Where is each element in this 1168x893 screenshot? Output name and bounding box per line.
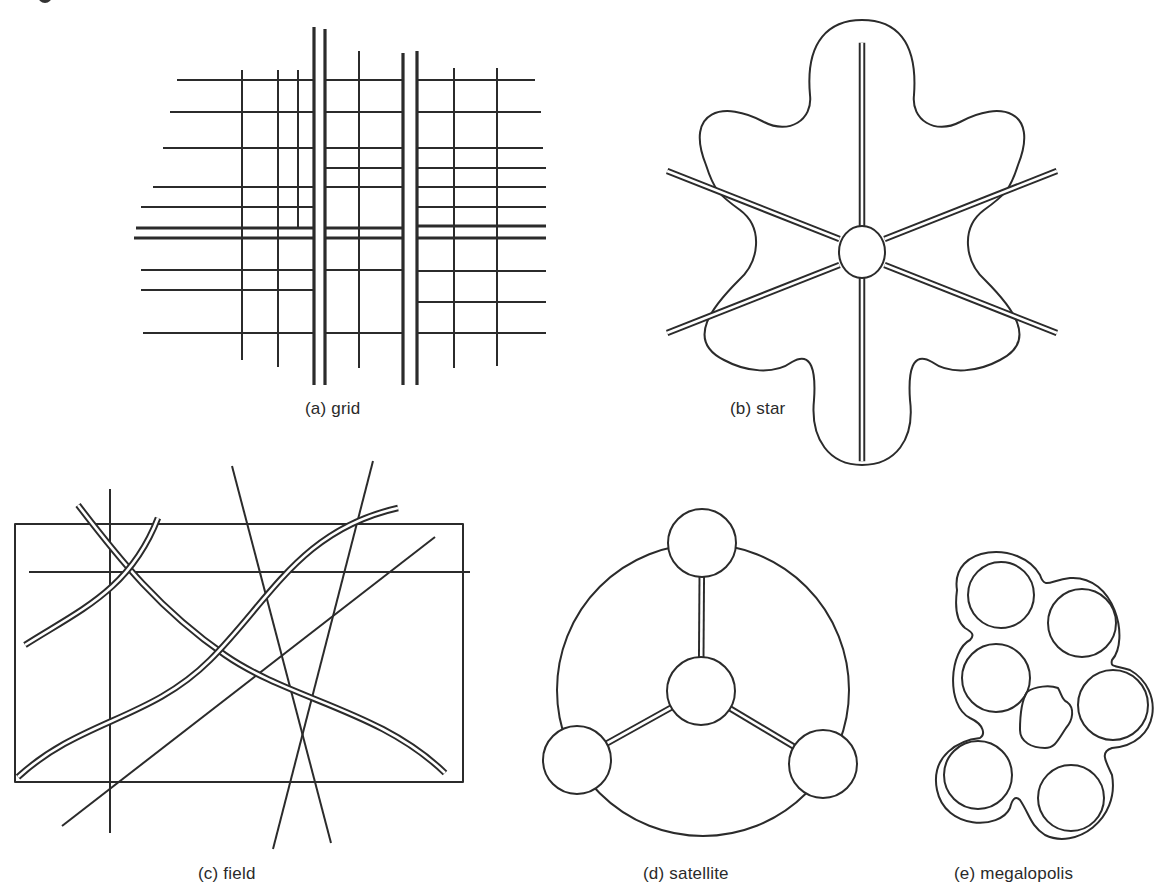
satellite-town (789, 730, 857, 798)
star-radial-road-inner (667, 265, 839, 333)
satellite-diagram (543, 509, 857, 836)
megalopolis-city (1038, 765, 1104, 831)
megalopolis-city (962, 644, 1030, 712)
caption-field: (c) field (198, 864, 256, 884)
megalopolis-city (944, 741, 1012, 809)
field-road (232, 466, 331, 843)
satellite-central-city (667, 657, 735, 725)
figure-canvas (0, 0, 1168, 893)
satellite-town (543, 726, 611, 794)
caption-satellite: (d) satellite (643, 864, 729, 884)
caption-grid: (a) grid (305, 399, 360, 419)
grid-diagram (134, 27, 546, 385)
caption-star: (b) star (728, 399, 787, 419)
megalopolis-city (1078, 670, 1148, 740)
caption-megalopolis: (e) megalopolis (954, 864, 1073, 884)
megalopolis-city (968, 562, 1034, 628)
star-central-hub (839, 226, 885, 278)
field-curved-road-inner (78, 505, 445, 773)
field-boundary (15, 524, 463, 782)
satellite-town (668, 509, 736, 577)
megalopolis-central-blob (1020, 686, 1072, 748)
star-radial-road-inner (885, 265, 1057, 333)
star-diagram (667, 20, 1057, 465)
field-diagram (15, 461, 470, 849)
megalopolis-city (1048, 589, 1116, 657)
megalopolis-diagram (936, 552, 1153, 839)
